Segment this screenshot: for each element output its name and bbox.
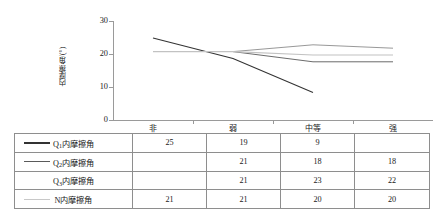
table-cell-value: 18 [355, 152, 430, 171]
table-row: Q3内摩擦角212322 [15, 171, 430, 190]
y-tick-mark [109, 120, 113, 121]
table-cell-value [133, 171, 207, 190]
table-cell-value: 20 [355, 190, 430, 209]
table-cell-value: 21 [207, 171, 281, 190]
legend-label-text: Q2内摩擦角 [53, 159, 94, 168]
y-tick-mark [109, 87, 113, 88]
table-cell-value [355, 134, 430, 153]
legend-label-text: N内摩擦角 [55, 196, 93, 205]
y-axis-tick-labels: 3020100 [80, 0, 108, 133]
table-cell-value: 21 [133, 190, 207, 209]
legend-label-subscript: 3 [59, 180, 62, 187]
x-tick-mark [193, 120, 194, 124]
x-category-label: 强 [353, 122, 433, 133]
table-cell-value: 21 [207, 190, 281, 209]
series-line [153, 52, 393, 55]
y-tick-label: 10 [82, 82, 108, 91]
legend-line-swatch [24, 161, 50, 162]
table-cell-value [133, 152, 207, 171]
y-tick-label: 20 [82, 49, 108, 58]
table-row: Q1内摩擦角25199 [15, 134, 430, 153]
x-tick-mark [353, 120, 354, 124]
legend-label-text: Q3内摩擦角 [53, 177, 94, 186]
legend-line-swatch [24, 142, 50, 144]
x-category-label: 中等 [273, 122, 353, 133]
table-cell-value: 22 [355, 171, 430, 190]
table-cell-value: 18 [281, 152, 355, 171]
table-cell-value: 9 [281, 134, 355, 153]
table-cell-value: 25 [133, 134, 207, 153]
series-legend-label: Q3内摩擦角 [15, 171, 133, 190]
chart-data-table: Q1内摩擦角25199Q2内摩擦角211818Q3内摩擦角212322N内摩擦角… [14, 133, 430, 209]
x-tick-mark [273, 120, 274, 124]
table-cell-value: 19 [207, 134, 281, 153]
y-tick-label: 30 [82, 16, 108, 25]
figure-container: 内摩擦角/(°) 3020100 非弱中等强 Q1内摩擦角25199Q2内摩擦角… [0, 0, 443, 212]
series-line [153, 38, 313, 92]
table-row: N内摩擦角21212020 [15, 190, 430, 209]
y-tick-label: 0 [82, 115, 108, 124]
chart-plot-area [113, 18, 433, 120]
series-line [233, 45, 393, 52]
series-legend-label: Q2内摩擦角 [15, 152, 133, 171]
table-cell-value: 20 [281, 190, 355, 209]
table-row: Q2内摩擦角211818 [15, 152, 430, 171]
x-category-label: 弱 [193, 122, 273, 133]
legend-label-subscript: 1 [59, 142, 62, 149]
line-chart: 内摩擦角/(°) 3020100 非弱中等强 [0, 0, 443, 133]
legend-label-text: Q1内摩擦角 [53, 140, 94, 149]
x-category-label: 非 [113, 122, 193, 133]
y-axis-title: 内摩擦角/(°) [56, 26, 70, 106]
y-tick-mark [109, 21, 113, 22]
table-cell-value: 23 [281, 171, 355, 190]
table-body: Q1内摩擦角25199Q2内摩擦角211818Q3内摩擦角212322N内摩擦角… [15, 134, 430, 209]
legend-label-subscript: 2 [59, 161, 62, 168]
table-cell-value: 21 [207, 152, 281, 171]
legend-line-swatch [24, 199, 50, 201]
y-tick-mark [109, 54, 113, 55]
series-legend-label: N内摩擦角 [15, 190, 133, 209]
series-legend-label: Q1内摩擦角 [15, 134, 133, 153]
